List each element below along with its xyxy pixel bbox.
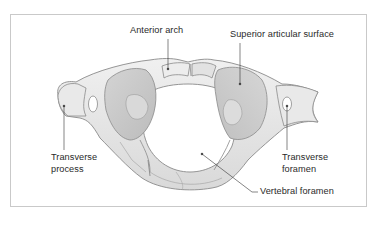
right-transverse-process xyxy=(276,85,318,126)
label-transverse-process-line1: Transverse xyxy=(51,152,97,164)
label-transverse-foramen: Transverse foramen xyxy=(282,152,328,175)
label-transverse-foramen-line1: Transverse xyxy=(282,152,328,164)
label-transverse-foramen-line2: foramen xyxy=(282,164,328,176)
label-anterior-arch: Anterior arch xyxy=(130,25,183,37)
label-superior-articular-surface: Superior articular surface xyxy=(230,29,334,41)
label-transverse-process-line2: process xyxy=(51,164,97,176)
left-transverse-foramen xyxy=(89,96,98,112)
label-vertebral-foramen: Vertebral foramen xyxy=(260,186,334,198)
label-transverse-process: Transverse process xyxy=(51,152,97,175)
